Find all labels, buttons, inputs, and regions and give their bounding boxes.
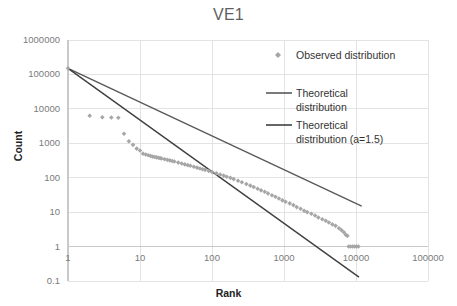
gridlines [68,40,428,281]
y-tick-label: 10000 [0,103,60,114]
legend-item-label[interactable]: distribution (a=1.5) [296,133,383,146]
y-tick-label: 10 [0,206,60,217]
y-tick-label: 100 [0,172,60,183]
x-axis-title: Rank [0,287,457,299]
y-tick-label: 1000000 [0,34,60,45]
legend-marker-diamond [275,52,281,58]
x-tick-label: 1000 [254,252,314,263]
y-tick-label: 1 [0,241,60,252]
legend-item-label[interactable]: Theoretical [296,119,348,132]
y-tick-label: 1000 [0,137,60,148]
y-tick-label: 100000 [0,68,60,79]
x-tick-label: 100000 [398,252,457,263]
x-tick-label: 100 [182,252,242,263]
legend-item-label[interactable]: distribution [296,101,347,114]
x-tick-label: 1 [38,252,98,263]
axis-lines [68,40,428,281]
y-tick-label: 0.1 [0,275,60,286]
legend-item-label[interactable]: Observed distribution [296,49,395,62]
legend-item-label[interactable]: Theoretical [296,87,348,100]
x-tick-label: 10 [110,252,170,263]
chart-container: VE1 Count Rank 1000000100000100001000100… [0,0,457,306]
x-tick-label: 10000 [326,252,386,263]
